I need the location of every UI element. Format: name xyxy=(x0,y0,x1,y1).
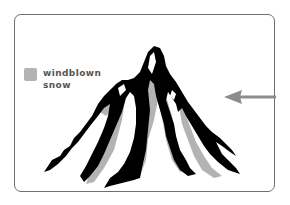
wind-arrow-icon xyxy=(224,90,276,104)
mountain-illustration xyxy=(0,0,290,205)
